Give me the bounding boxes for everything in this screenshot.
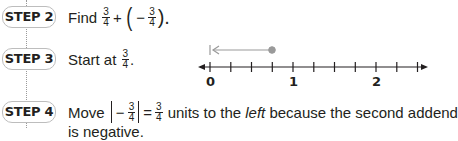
emphasis-left: left	[245, 104, 265, 121]
fraction: 34	[128, 102, 136, 123]
step-4-suffix: because the second addend	[269, 104, 458, 121]
axis	[198, 62, 428, 72]
step-4-label: STEP 4	[5, 104, 53, 119]
equals-sign: =	[143, 104, 152, 121]
fraction: 34	[155, 102, 163, 123]
step-4-continuation: is negative.	[68, 121, 144, 141]
absolute-value: − 34	[111, 101, 139, 123]
tick-label-2: 2	[372, 74, 381, 89]
numerator: 3	[128, 102, 136, 113]
numerator: 3	[155, 102, 163, 113]
step-4-cutoff: is negative.	[68, 123, 144, 140]
minus-sign: −	[116, 104, 125, 121]
step-4-prefix: Move	[68, 104, 105, 121]
tick-label-1: 1	[289, 74, 298, 89]
step-4-badge: STEP 4	[2, 101, 56, 123]
movement-arrow	[210, 45, 275, 55]
denominator: 4	[156, 113, 162, 123]
tick-label-0: 0	[206, 74, 215, 89]
step-4-mid: units to the	[168, 104, 241, 121]
